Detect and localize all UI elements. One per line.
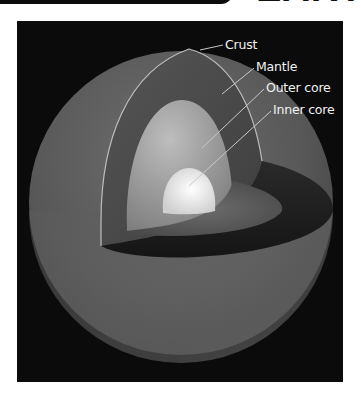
label-outer-core: Outer core (266, 81, 331, 95)
page-title: EARTH (256, 0, 346, 3)
label-crust: Crust (225, 38, 257, 52)
earth-cutaway-illustration (17, 21, 343, 382)
header-bar (0, 0, 233, 4)
crust-leader-line (200, 45, 223, 50)
label-mantle: Mantle (256, 60, 297, 74)
label-inner-core: Inner core (273, 103, 334, 117)
earth-diagram: Crust Mantle Outer core Inner core (17, 21, 343, 382)
